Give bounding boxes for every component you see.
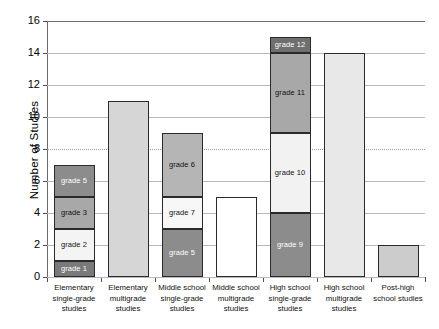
bar-segment[interactable] bbox=[324, 53, 365, 277]
x-axis-category-label: Middle schoolmultigradestudies bbox=[209, 283, 263, 315]
x-tick-1 bbox=[101, 278, 102, 282]
bar-segment[interactable]: grade 7 bbox=[162, 197, 203, 229]
x-axis-category-label-line: Elementary bbox=[101, 283, 155, 294]
y-tick-label-4: 4 bbox=[18, 207, 40, 218]
bar-segment-label: grade 3 bbox=[61, 209, 87, 217]
bar-segment-label: grade 11 bbox=[275, 89, 305, 97]
x-axis-category-label-line: studies bbox=[155, 304, 209, 315]
x-tick-4 bbox=[263, 278, 264, 282]
y-tick-label-14: 14 bbox=[18, 47, 40, 58]
x-axis-category-label-line: Elementary bbox=[47, 283, 101, 294]
bar-segment[interactable]: grade 1 bbox=[54, 261, 95, 277]
gridline-0 bbox=[47, 277, 425, 278]
x-axis-category-label-line: High school bbox=[317, 283, 371, 294]
y-tick-label-0: 0 bbox=[18, 271, 40, 282]
x-tick-7 bbox=[425, 278, 426, 282]
y-tick-label-2: 2 bbox=[18, 239, 40, 250]
bar-segment[interactable]: grade 12 bbox=[270, 37, 311, 53]
y-tick-label-10: 10 bbox=[18, 111, 40, 122]
bar[interactable] bbox=[378, 245, 419, 277]
x-axis-category-label: Elementarymultigradestudies bbox=[101, 283, 155, 315]
bar[interactable]: grade 1grade 2grade 3grade 5 bbox=[54, 165, 95, 277]
x-axis-category-label-line: single-grade bbox=[155, 294, 209, 305]
x-axis-category-label-line: studies bbox=[101, 304, 155, 315]
x-axis-category-label-line: multigrade bbox=[209, 294, 263, 305]
x-axis-category-label-line: Middle school bbox=[209, 283, 263, 294]
bar-segment[interactable]: grade 10 bbox=[270, 133, 311, 213]
bar[interactable]: grade 5grade 7grade 6 bbox=[162, 133, 203, 277]
bar-segment[interactable]: grade 5 bbox=[162, 229, 203, 277]
x-axis-category-label-line: studies bbox=[47, 304, 101, 315]
bar[interactable] bbox=[216, 197, 257, 277]
x-tick-2 bbox=[155, 278, 156, 282]
x-tick-0 bbox=[47, 278, 48, 282]
bars-layer: grade 1grade 2grade 3grade 5grade 5grade… bbox=[47, 21, 425, 277]
bar-segment[interactable]: grade 2 bbox=[54, 229, 95, 261]
bar[interactable]: grade 9grade 10grade 11grade 12 bbox=[270, 37, 311, 277]
bar-segment[interactable] bbox=[108, 101, 149, 277]
y-tick-label-6: 6 bbox=[18, 175, 40, 186]
y-tick-label-12: 12 bbox=[18, 79, 40, 90]
bar-segment-label: grade 5 bbox=[169, 249, 195, 257]
x-axis-category-label: Middle schoolsingle-gradestudies bbox=[155, 283, 209, 315]
x-axis-category-label-line: multigrade bbox=[101, 294, 155, 305]
bar-segment[interactable]: grade 9 bbox=[270, 213, 311, 277]
bar-segment[interactable] bbox=[378, 245, 419, 277]
bar-segment-label: grade 9 bbox=[277, 241, 303, 249]
y-tick-label-16: 16 bbox=[18, 15, 40, 26]
bar[interactable] bbox=[324, 53, 365, 277]
x-axis-category-label-line: multigrade bbox=[317, 294, 371, 305]
bar-segment[interactable]: grade 6 bbox=[162, 133, 203, 197]
bar-segment-label: grade 12 bbox=[275, 41, 305, 49]
bar[interactable] bbox=[108, 101, 149, 277]
bar-segment-label: grade 6 bbox=[169, 161, 195, 169]
x-tick-5 bbox=[317, 278, 318, 282]
x-axis-category-label: Post-highschool studies bbox=[371, 283, 425, 304]
bar-segment-label: grade 7 bbox=[169, 209, 195, 217]
x-axis-category-label-line: studies bbox=[263, 304, 317, 315]
x-axis-category-label-line: studies bbox=[317, 304, 371, 315]
y-tick-label-8: 8 bbox=[18, 143, 40, 154]
x-axis-category-label-line: studies bbox=[209, 304, 263, 315]
x-axis-category-label-line: single-grade bbox=[263, 294, 317, 305]
bar-chart: Number of Studies 0246810121416 grade 1g… bbox=[0, 0, 439, 329]
bar-segment-label: grade 10 bbox=[275, 169, 305, 177]
x-axis-category-label-line: single-grade bbox=[47, 294, 101, 305]
bar-segment-label: grade 5 bbox=[61, 177, 87, 185]
bar-segment[interactable]: grade 11 bbox=[270, 53, 311, 133]
x-axis-category-label: High schoolmultigradestudies bbox=[317, 283, 371, 315]
x-axis-category-label: High schoolsingle-gradestudies bbox=[263, 283, 317, 315]
x-axis-category-label-line: Middle school bbox=[155, 283, 209, 294]
x-tick-6 bbox=[371, 278, 372, 282]
x-axis-category-label: Elementarysingle-gradestudies bbox=[47, 283, 101, 315]
bar-segment-label: grade 2 bbox=[61, 241, 87, 249]
bar-segment-label: grade 1 bbox=[61, 265, 87, 273]
x-axis-category-label-line: Post-high bbox=[371, 283, 425, 294]
x-axis-category-label-line: school studies bbox=[371, 294, 425, 305]
bar-segment[interactable] bbox=[216, 197, 257, 277]
bar-segment[interactable]: grade 5 bbox=[54, 165, 95, 197]
bar-segment[interactable]: grade 3 bbox=[54, 197, 95, 229]
x-axis-category-label-line: High school bbox=[263, 283, 317, 294]
x-tick-3 bbox=[209, 278, 210, 282]
x-axis-labels: Elementarysingle-gradestudiesElementarym… bbox=[47, 283, 425, 329]
